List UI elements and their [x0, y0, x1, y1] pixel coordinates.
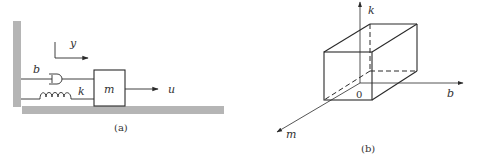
- k-axis-label: k: [368, 4, 375, 17]
- figure-b-caption: (b): [361, 143, 375, 154]
- wall: [13, 21, 21, 107]
- m-axis: [277, 83, 360, 132]
- m-axis-label: m: [286, 128, 296, 141]
- ground: [22, 106, 224, 114]
- b-axis-label: b: [447, 87, 454, 100]
- figure-a-mass-spring-damper: y b k m u (a): [13, 21, 224, 133]
- figure-b-parameter-space: k b m 0 (b): [277, 2, 463, 154]
- mass-label: m: [104, 83, 114, 96]
- input-label: u: [168, 83, 175, 96]
- figure-a-caption: (a): [114, 122, 128, 133]
- figure-canvas: y b k m u (a): [0, 0, 481, 164]
- damper-label: b: [33, 63, 40, 76]
- displacement-label: y: [69, 37, 77, 50]
- origin-label: 0: [356, 89, 362, 100]
- spring-label: k: [78, 85, 85, 98]
- damper: [21, 74, 94, 84]
- hidden-edges: [324, 24, 417, 100]
